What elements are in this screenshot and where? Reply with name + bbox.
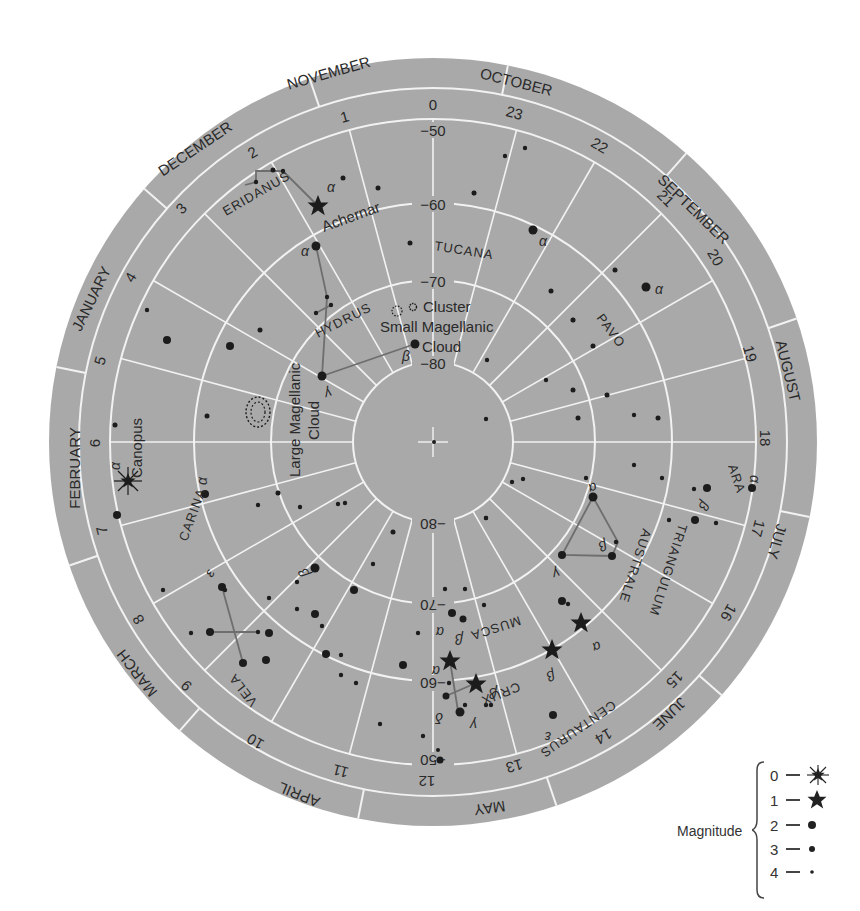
star	[276, 491, 280, 495]
star	[226, 342, 234, 350]
star	[510, 480, 514, 484]
star	[660, 476, 664, 480]
large-dot-icon	[806, 819, 818, 831]
star	[265, 629, 273, 637]
star-chart: NOVEMBER OCTOBER SEPTEMBER AUGUST JULY J…	[0, 0, 860, 911]
legend-row-0: 0	[770, 764, 830, 786]
greek-crux-delta: δ	[435, 710, 443, 726]
star	[371, 562, 375, 566]
star	[521, 477, 525, 481]
brace-icon	[752, 760, 766, 900]
label-smc-line1: Small Magellanic	[380, 318, 494, 335]
star	[667, 518, 671, 522]
star	[298, 505, 302, 509]
star	[258, 328, 263, 333]
star	[571, 388, 576, 393]
hour-label-0: 0	[429, 96, 437, 113]
star	[113, 511, 121, 519]
greek-ara-alpha: α	[747, 475, 763, 484]
star	[378, 722, 382, 726]
star	[463, 703, 467, 707]
star	[223, 588, 227, 592]
star	[339, 673, 343, 677]
greek-canopus-alpha: α	[107, 461, 123, 470]
star	[314, 311, 318, 315]
star-centaurus-epsilon	[549, 711, 557, 719]
star	[325, 295, 329, 299]
star	[421, 734, 425, 738]
star	[416, 631, 420, 635]
star	[189, 631, 193, 635]
label-canopus: Canopus	[128, 418, 145, 478]
label-lmc-line1: Large Magellanic	[286, 362, 303, 477]
greek-musca-beta: β	[455, 631, 464, 647]
star	[256, 630, 260, 634]
star	[523, 146, 527, 150]
star	[584, 476, 588, 480]
star	[482, 603, 486, 607]
hour-label-6: 6	[86, 439, 103, 447]
magnitude-legend: Magnitude 0 1 2 3 4	[752, 756, 852, 906]
star-ara	[691, 516, 699, 524]
star-vela	[239, 659, 247, 667]
star	[339, 653, 343, 657]
star	[295, 607, 299, 611]
dec-label-70: −70	[420, 273, 445, 290]
legend-row-4: 4	[770, 861, 818, 883]
star	[571, 318, 575, 322]
star	[256, 503, 260, 507]
pole-star	[432, 440, 436, 444]
hour-label-18: 18	[757, 430, 774, 447]
star	[472, 191, 476, 195]
medium-dot-icon	[806, 843, 818, 855]
star	[613, 268, 618, 273]
star-ara-beta	[703, 484, 711, 492]
star	[566, 602, 570, 606]
greek-crux-gamma: γ	[469, 717, 477, 733]
star	[320, 624, 324, 628]
label-lmc-line2: Cloud	[305, 401, 322, 440]
star	[267, 596, 271, 600]
star-icon	[806, 789, 828, 811]
dec-label-50: −50	[420, 122, 445, 139]
star	[163, 336, 171, 344]
star	[614, 540, 618, 544]
star-hydrus-gamma	[318, 372, 327, 381]
star	[443, 587, 447, 591]
star	[311, 610, 319, 618]
star	[329, 303, 333, 307]
star-triangulum-gamma	[558, 551, 566, 559]
star	[399, 661, 407, 669]
star	[484, 417, 488, 421]
star	[271, 168, 276, 173]
greek-achernar-alpha: α	[327, 179, 336, 195]
greek-musca-alpha: α	[435, 624, 444, 640]
dec-label-70-bottom: −70	[420, 597, 445, 614]
label-smc-line2: Cloud	[422, 338, 461, 355]
star-musca-alpha	[448, 609, 456, 617]
star-ara-alpha	[748, 484, 756, 492]
star-pavo-alpha	[642, 283, 651, 292]
star	[376, 186, 381, 191]
star	[336, 502, 340, 506]
star	[558, 597, 566, 605]
greek-centaurus-epsilon: ε	[544, 729, 551, 745]
burst-star-icon	[806, 764, 830, 786]
star-crux-delta	[443, 693, 450, 700]
star	[343, 501, 347, 505]
greek-crux-beta: β	[489, 685, 498, 701]
star	[437, 757, 444, 764]
small-dot-icon	[806, 866, 818, 878]
greek-crux-alpha: α	[431, 663, 440, 679]
legend-row-3: 3	[770, 838, 818, 860]
star	[605, 393, 610, 398]
star	[656, 416, 661, 421]
star	[408, 241, 413, 246]
legend-row-1: 1	[770, 789, 828, 811]
star	[484, 516, 488, 520]
star	[354, 681, 358, 685]
star	[161, 588, 165, 592]
star	[262, 656, 270, 664]
star-vela	[206, 628, 214, 636]
star	[447, 681, 451, 685]
